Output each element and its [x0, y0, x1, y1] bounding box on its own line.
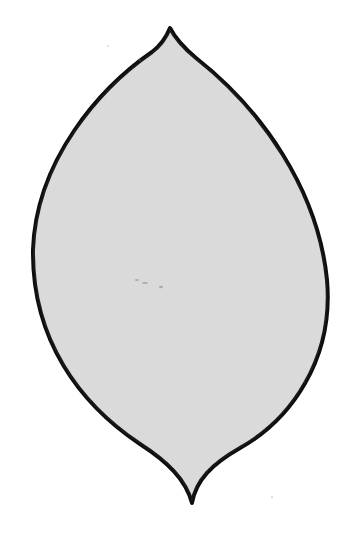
- leaf-drawing: [0, 0, 348, 537]
